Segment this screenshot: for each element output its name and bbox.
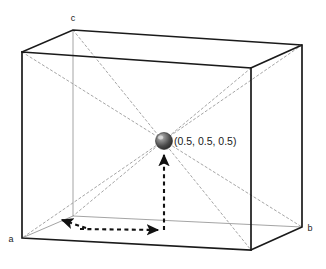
hidden-edge-bottom-left-depth <box>22 216 73 238</box>
edge-right-face <box>251 45 302 250</box>
point-coordinate-label: (0.5, 0.5, 0.5) <box>174 135 236 147</box>
axis-label-b: b <box>307 223 312 233</box>
hidden-edge-back-bottom <box>73 216 302 227</box>
axis-label-a: a <box>8 234 13 244</box>
unit-cell-svg: a b c (0.5, 0.5, 0.5) <box>0 0 326 269</box>
coordinate-arrows-group <box>62 155 164 230</box>
arrow-depth-axis <box>62 220 86 228</box>
edge-front-face <box>22 52 251 250</box>
center-atom-sphere <box>156 133 173 150</box>
axis-label-c: c <box>71 13 76 23</box>
unit-cell-figure: a b c (0.5, 0.5, 0.5) <box>0 0 326 269</box>
arrow-a-axis <box>80 229 158 230</box>
